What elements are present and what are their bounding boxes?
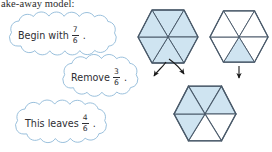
hexagon-remove-shape xyxy=(208,8,270,66)
cloud-begin-text: Begin with 7 6 . xyxy=(18,26,86,44)
fraction-numerator: 3 xyxy=(113,68,120,76)
fraction-denominator: 6 xyxy=(113,79,120,87)
page-title: ake-away model: xyxy=(1,0,75,9)
cloud-begin-period: . xyxy=(83,30,86,41)
cloud-remove-period: . xyxy=(124,72,127,83)
cloud-remove-label: Remove xyxy=(71,72,110,83)
cloud-begin-label: Begin with xyxy=(18,30,69,41)
cloud-leaves-label: This leaves xyxy=(25,118,79,129)
fraction-numerator: 7 xyxy=(72,26,79,34)
fraction-denominator: 6 xyxy=(82,125,89,133)
cloud-leaves: This leaves 4 6 . xyxy=(8,100,126,144)
hexagon-result-shape xyxy=(172,83,238,145)
cloud-begin-fraction: 7 6 xyxy=(72,26,79,44)
hexagon-begin-shape xyxy=(136,8,200,66)
hexagon-result xyxy=(172,83,238,145)
cloud-leaves-text: This leaves 4 6 . xyxy=(25,114,96,132)
worksheet-figure: ake-away model: Begin with 7 6 . Remove … xyxy=(0,0,272,152)
cloud-leaves-period: . xyxy=(93,118,96,129)
cloud-leaves-fraction: 4 6 xyxy=(82,114,89,132)
cloud-remove-text: Remove 3 6 . xyxy=(71,68,127,86)
cloud-remove: Remove 3 6 . xyxy=(56,55,138,97)
hexagon-remove xyxy=(208,8,270,66)
cloud-remove-fraction: 3 6 xyxy=(113,68,120,86)
cloud-begin: Begin with 7 6 . xyxy=(2,13,128,55)
hexagon-begin xyxy=(136,8,200,66)
fraction-denominator: 6 xyxy=(72,37,79,45)
fraction-numerator: 4 xyxy=(82,114,89,122)
